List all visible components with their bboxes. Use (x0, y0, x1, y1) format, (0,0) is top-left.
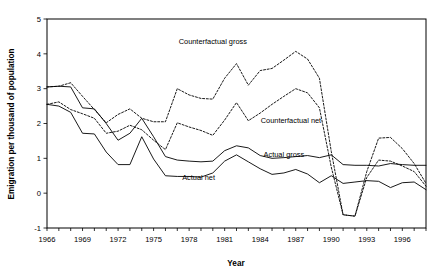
y-tick-label: 0 (37, 189, 41, 198)
x-tick-label: 1966 (39, 235, 56, 244)
y-tick-label: 3 (37, 84, 41, 93)
series-label-counterfactual-gross: Counterfactual gross (179, 37, 247, 46)
series-line-counterfactual-net (47, 89, 426, 216)
y-tick-label: 5 (37, 15, 41, 24)
y-axis-title: Emigration per thousand of population (7, 48, 16, 199)
series-label-actual-gross: Actual gross (264, 150, 305, 159)
emigration-line-chart: -1012345 1966196919721975197819811984198… (0, 0, 445, 275)
x-axis-tick-labels: 1966196919721975197819811984198719901993… (39, 235, 411, 244)
chart-figure: -1012345 1966196919721975197819811984198… (0, 0, 445, 275)
series-annotations: Counterfactual grossCounterfactual netAc… (179, 37, 321, 182)
x-tick-label: 1987 (287, 235, 304, 244)
x-tick-label: 1993 (358, 235, 375, 244)
y-tick-label: -1 (34, 224, 41, 233)
x-tick-label: 1978 (181, 235, 198, 244)
y-tick-label: 4 (37, 50, 41, 59)
series-label-actual-net: Actual net (182, 173, 215, 182)
x-tick-label: 1990 (323, 235, 340, 244)
x-tick-label: 1969 (74, 235, 91, 244)
series-line-actual-gross (47, 86, 426, 166)
series-line-actual-net (47, 104, 426, 189)
x-tick-label: 1981 (216, 235, 233, 244)
y-axis-ticks (44, 19, 48, 228)
y-axis-tick-labels: -1012345 (34, 15, 41, 233)
y-tick-label: 1 (37, 154, 41, 163)
series-lines (47, 51, 426, 216)
x-tick-label: 1975 (145, 235, 162, 244)
series-line-counterfactual-gross (47, 51, 426, 216)
plot-frame (47, 19, 426, 228)
x-axis-title: Year (227, 259, 245, 268)
x-tick-label: 1996 (394, 235, 411, 244)
y-tick-label: 2 (37, 119, 41, 128)
x-tick-label: 1984 (252, 235, 269, 244)
x-tick-label: 1972 (110, 235, 127, 244)
series-label-counterfactual-net: Counterfactual net (261, 116, 321, 125)
